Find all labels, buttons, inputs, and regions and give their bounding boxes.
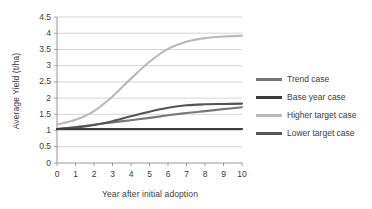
x-tick-label: 9	[215, 169, 233, 179]
y-tick-label: 2.5	[25, 76, 51, 86]
line-chart-figure: Average Yield (t/ha) Year after initial …	[0, 0, 372, 209]
y-tick-label: 1	[25, 125, 51, 135]
x-tick-label: 1	[67, 169, 85, 179]
legend-item[interactable]: Lower target case	[256, 124, 372, 142]
x-tick-label: 0	[48, 169, 66, 179]
legend-item[interactable]: Base year case	[256, 88, 372, 106]
legend-item-label: Trend case	[287, 74, 329, 84]
legend-item-label: Higher target case	[287, 110, 356, 120]
x-tick-label: 7	[178, 169, 196, 179]
y-tick-label: 3.5	[25, 44, 51, 54]
legend-swatch-icon	[256, 96, 282, 99]
y-tick-label: 1.5	[25, 109, 51, 119]
legend-swatch-icon	[256, 78, 282, 81]
x-tick-label: 4	[122, 169, 140, 179]
y-tick-label: 3	[25, 60, 51, 70]
x-tick-label: 10	[233, 169, 251, 179]
axis-tickmarks	[54, 17, 242, 166]
y-tick-label: 0	[25, 158, 51, 168]
chart-legend: Trend caseBase year caseHigher target ca…	[256, 70, 372, 142]
x-axis-title: Year after initial adoption	[57, 189, 243, 199]
x-tick-label: 6	[159, 169, 177, 179]
legend-swatch-icon	[256, 132, 282, 135]
y-tick-label: 0.5	[25, 141, 51, 151]
y-tick-label: 4.5	[25, 12, 51, 22]
axis-lines	[57, 17, 242, 163]
x-tick-label: 3	[104, 169, 122, 179]
x-tick-label: 2	[85, 169, 103, 179]
x-tick-label: 5	[141, 169, 159, 179]
legend-item[interactable]: Trend case	[256, 70, 372, 88]
legend-swatch-icon	[256, 114, 282, 117]
legend-item[interactable]: Higher target case	[256, 106, 372, 124]
x-tick-label: 8	[196, 169, 214, 179]
y-tick-label: 4	[25, 28, 51, 38]
legend-item-label: Base year case	[287, 92, 346, 102]
legend-item-label: Lower target case	[287, 128, 355, 138]
y-axis-title: Average Yield (t/ha)	[11, 36, 21, 146]
y-tick-label: 2	[25, 93, 51, 103]
